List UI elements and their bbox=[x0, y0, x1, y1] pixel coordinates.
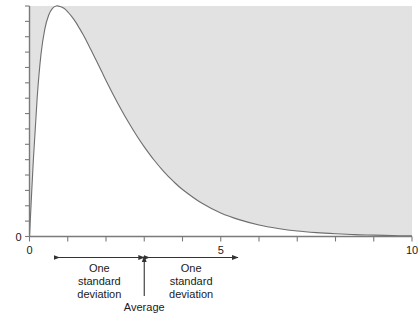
left-sd-label-line-3: deviation bbox=[77, 288, 121, 300]
right-sd-label-line-2: standard bbox=[170, 275, 213, 287]
distribution-chart: 0 0510 One standard deviation One standa… bbox=[0, 0, 420, 323]
right-sd-label-line-3: deviation bbox=[169, 288, 213, 300]
x-axis-tick-label: 5 bbox=[218, 244, 224, 256]
x-axis-tick-label: 10 bbox=[406, 244, 418, 256]
x-axis-tick-label: 0 bbox=[26, 244, 32, 256]
left-sd-label-line-1: One bbox=[89, 262, 110, 274]
average-label: Average bbox=[124, 301, 165, 313]
y-axis-tick-labels: 0 bbox=[15, 231, 21, 243]
y-axis-tick-label: 0 bbox=[15, 231, 21, 243]
left-sd-label-line-2: standard bbox=[78, 275, 121, 287]
right-sd-label-line-1: One bbox=[181, 262, 202, 274]
figure-root: 0 0510 One standard deviation One standa… bbox=[0, 0, 420, 323]
